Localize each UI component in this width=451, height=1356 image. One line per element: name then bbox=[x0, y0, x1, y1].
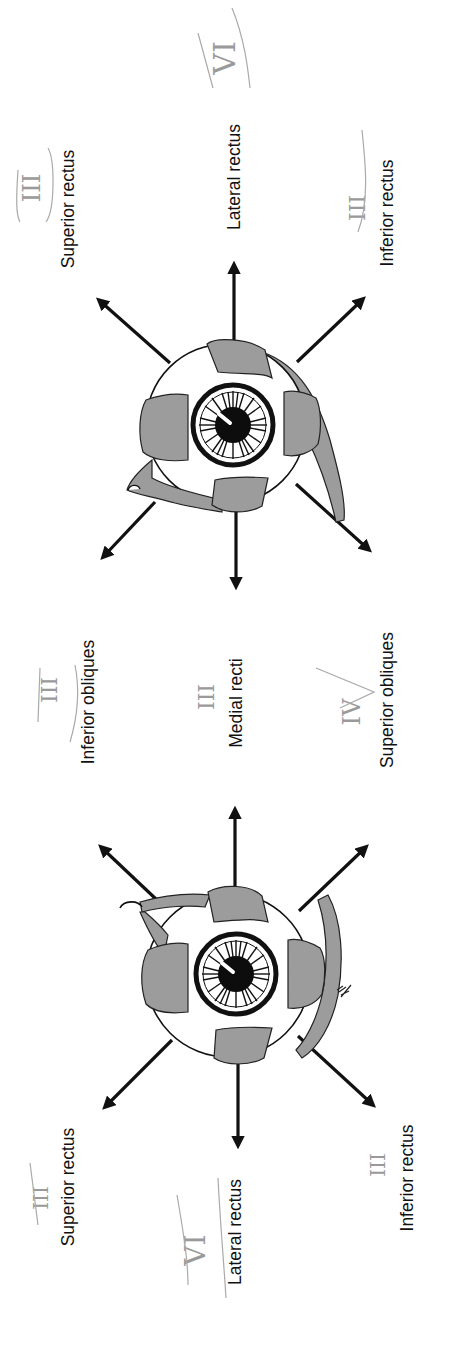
arrow-up-left bbox=[100, 301, 170, 363]
label-top-inferior-rectus: Inferior rectus bbox=[377, 159, 397, 266]
left-muscle bbox=[140, 394, 188, 460]
arrow-up-right bbox=[299, 848, 365, 911]
bottom-eyeball bbox=[120, 886, 351, 1064]
annotation-top-inferior-rectus-nerve: III bbox=[345, 195, 370, 221]
label-bottom-superior-rectus: Superior rectus bbox=[58, 1127, 78, 1246]
arrow-down-left bbox=[106, 1040, 172, 1106]
label-bottom-lateral-rectus: Lateral rectus bbox=[225, 1179, 245, 1285]
arrow-up-right bbox=[297, 300, 362, 362]
label-bottom-inferior-rectus: Inferior rectus bbox=[397, 1124, 417, 1231]
label-inferior-obliques: Inferior obliques bbox=[78, 639, 98, 764]
annotation-medial-recti-nerve: III bbox=[194, 684, 219, 710]
annotation-bottom-superior-rectus-nerve: III bbox=[29, 1186, 53, 1210]
annotation-inferior-obliques-nerve: III bbox=[37, 677, 62, 703]
top-eye-group bbox=[100, 266, 368, 585]
annotation-top-superior-rectus-nerve: III bbox=[18, 174, 46, 202]
label-medial-recti: Medial recti bbox=[226, 658, 246, 747]
annotation-top-lateral-rectus-nerve: VI bbox=[207, 41, 242, 76]
label-top-superior-rectus: Superior rectus bbox=[58, 149, 78, 268]
label-superior-obliques: Superior obliques bbox=[377, 632, 397, 768]
right-muscle bbox=[284, 391, 320, 456]
eye-muscles-diagram: Superior rectus Lateral rectus Inferior … bbox=[0, 0, 451, 1356]
inferior-muscle bbox=[212, 477, 268, 512]
bottom-eye-group bbox=[102, 811, 372, 1144]
arrow-down-left bbox=[104, 502, 155, 556]
label-top-lateral-rectus: Lateral rectus bbox=[224, 124, 244, 230]
annotation-bottom-inferior-rectus-nerve: III bbox=[366, 1153, 390, 1177]
arrow-up-left bbox=[102, 848, 157, 900]
top-eyeball bbox=[127, 340, 344, 522]
